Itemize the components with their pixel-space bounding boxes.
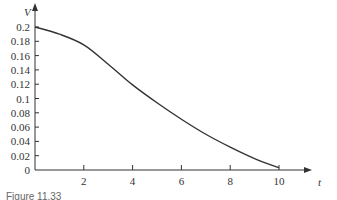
y-tick-label: 0.18 (11, 35, 31, 47)
x-tick-label: 4 (130, 175, 136, 187)
y-tick-label: 0.2 (16, 21, 30, 33)
x-tick-label: 10 (274, 175, 286, 187)
figure-caption: Figure 11.33 (6, 191, 61, 200)
y-tick-label: 0.04 (11, 135, 31, 147)
x-tick-label: 8 (227, 175, 233, 187)
line-chart: 00.020.040.060.080.10.120.140.160.180.2 … (0, 0, 337, 200)
y-tick-label: 0.1 (16, 93, 30, 105)
x-tick-label: 6 (179, 175, 185, 187)
y-tick-label: 0.12 (11, 78, 30, 90)
y-tick-label: 0.16 (11, 50, 31, 62)
y-axis-title: V (24, 6, 32, 18)
data-line (35, 27, 279, 168)
y-axis-arrow-icon (32, 3, 38, 11)
x-axis-title: t (318, 176, 322, 188)
x-axis-ticks: 246810 (81, 165, 285, 187)
x-tick-label: 2 (81, 175, 87, 187)
y-tick-label: 0.14 (11, 64, 31, 76)
y-tick-label: 0.08 (11, 107, 31, 119)
y-tick-label: 0.02 (11, 150, 30, 162)
y-tick-label: 0 (25, 164, 31, 176)
y-tick-label: 0.06 (11, 121, 31, 133)
x-axis-arrow-icon (304, 167, 312, 173)
